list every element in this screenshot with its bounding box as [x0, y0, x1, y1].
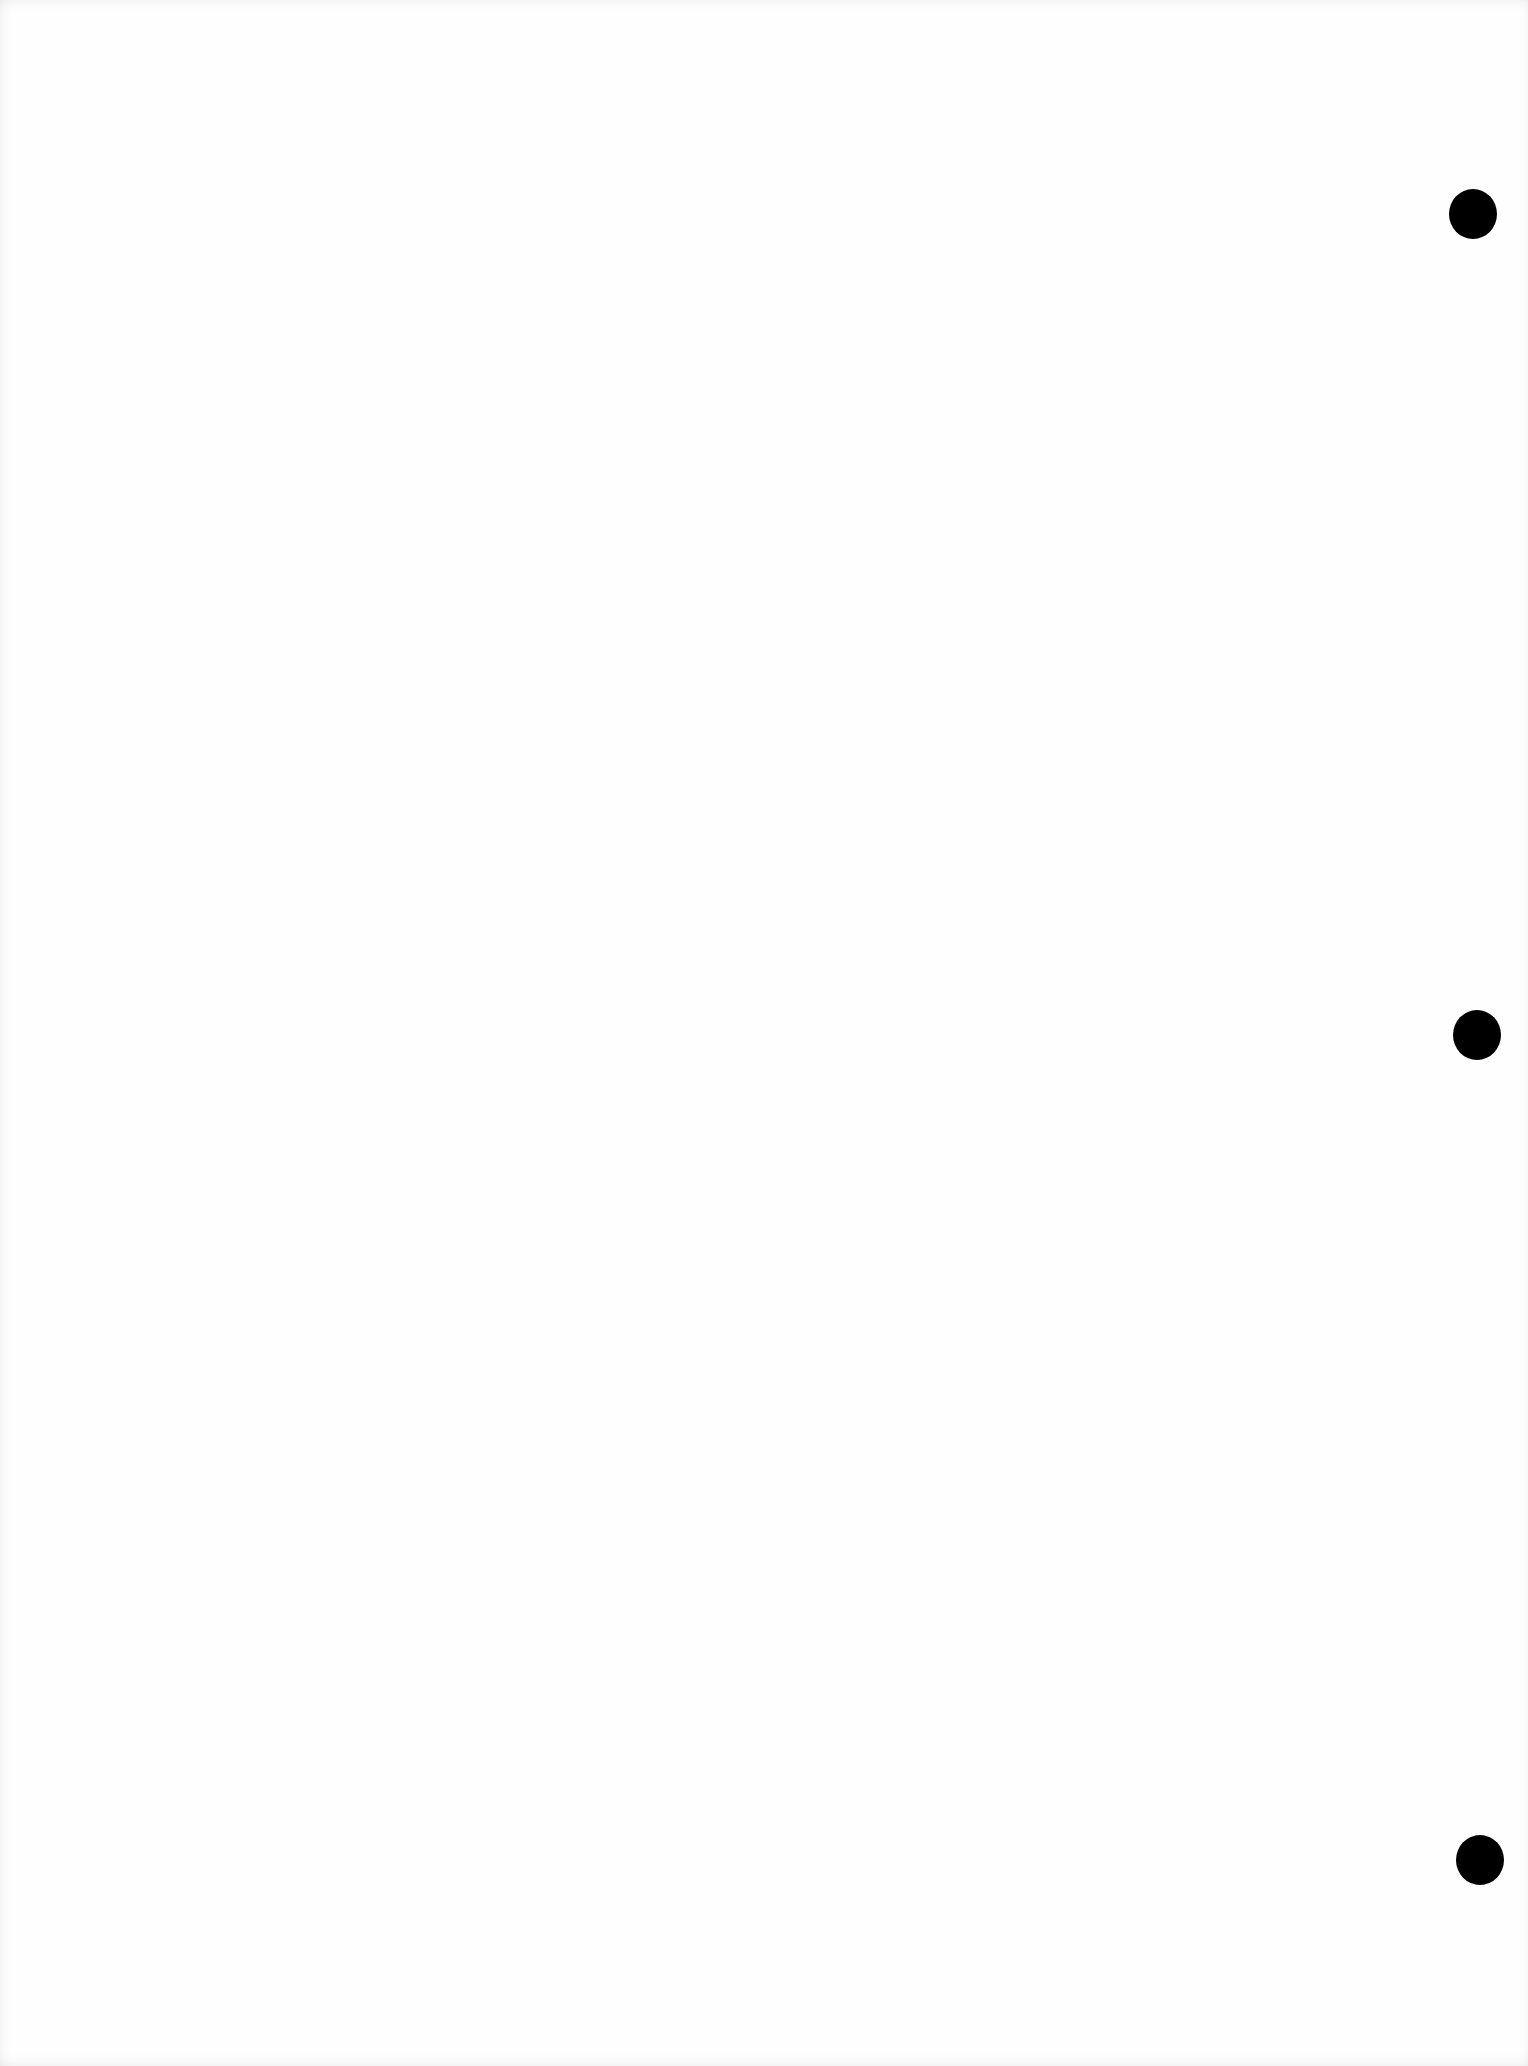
punch-hole-bottom	[1456, 1835, 1504, 1885]
punch-hole-middle	[1453, 1010, 1501, 1060]
blank-document-page	[0, 0, 1528, 2066]
punch-hole-top	[1449, 189, 1497, 239]
